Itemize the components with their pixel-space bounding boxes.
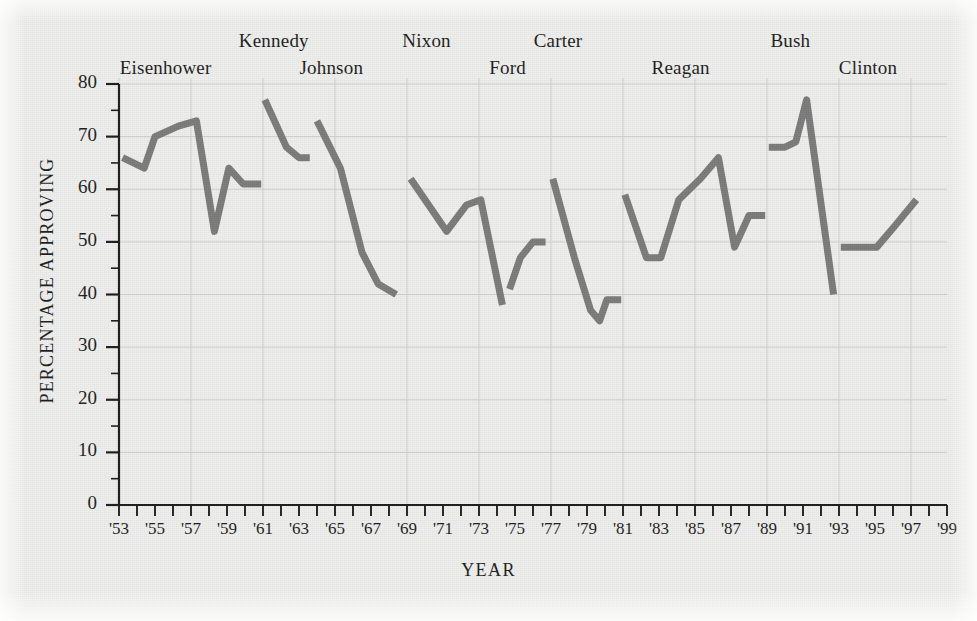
x-tick-label: '93 — [819, 519, 859, 539]
president-label-johnson: Johnson — [299, 57, 363, 79]
y-tick-label: 20 — [57, 387, 97, 409]
x-tick-label: '73 — [459, 519, 499, 539]
series-line-johnson — [317, 121, 396, 295]
president-label-eisenhower: Eisenhower — [120, 57, 212, 79]
y-tick-label: 60 — [57, 176, 97, 198]
data-lines — [123, 100, 917, 321]
x-tick-label: '83 — [639, 519, 679, 539]
president-label-carter: Carter — [534, 30, 583, 52]
y-tick-label: 40 — [57, 282, 97, 304]
series-line-eisenhower — [123, 121, 262, 232]
x-tick-label: '61 — [243, 519, 283, 539]
x-tick-label: '97 — [891, 519, 931, 539]
series-line-ford — [510, 242, 546, 289]
y-tick-label: 50 — [57, 229, 97, 251]
x-tick-label: '69 — [387, 519, 427, 539]
x-tick-label: '89 — [747, 519, 787, 539]
x-tick-label: '99 — [927, 519, 967, 539]
x-tick-label: '81 — [603, 519, 643, 539]
axis-ticks — [106, 84, 947, 516]
y-tick-label: 10 — [57, 439, 97, 461]
x-tick-label: '87 — [711, 519, 751, 539]
president-label-reagan: Reagan — [652, 57, 710, 79]
x-tick-label: '71 — [423, 519, 463, 539]
president-label-ford: Ford — [489, 57, 526, 79]
series-line-carter — [553, 179, 621, 321]
gridlines — [119, 78, 947, 505]
x-tick-label: '85 — [675, 519, 715, 539]
x-tick-label: '55 — [135, 519, 175, 539]
y-tick-label: 70 — [57, 124, 97, 146]
president-label-clinton: Clinton — [839, 57, 897, 79]
chart-page: 01020304050607080'53'55'57'59'61'63'65'6… — [0, 0, 977, 621]
series-line-bush — [769, 100, 834, 295]
president-label-kennedy: Kennedy — [239, 30, 309, 52]
x-axis-title: YEAR — [0, 560, 977, 581]
series-line-kennedy — [265, 100, 310, 158]
x-tick-label: '59 — [207, 519, 247, 539]
y-tick-label: 80 — [57, 71, 97, 93]
x-tick-label: '95 — [855, 519, 895, 539]
series-line-clinton — [841, 200, 917, 247]
x-tick-label: '77 — [531, 519, 571, 539]
president-label-nixon: Nixon — [402, 30, 451, 52]
x-tick-label: '79 — [567, 519, 607, 539]
x-tick-label: '53 — [99, 519, 139, 539]
x-tick-label: '75 — [495, 519, 535, 539]
x-tick-label: '57 — [171, 519, 211, 539]
x-tick-label: '67 — [351, 519, 391, 539]
x-tick-label: '63 — [279, 519, 319, 539]
y-tick-label: 0 — [57, 492, 97, 514]
x-tick-label: '91 — [783, 519, 823, 539]
x-tick-label: '65 — [315, 519, 355, 539]
y-tick-label: 30 — [57, 334, 97, 356]
president-label-bush: Bush — [770, 30, 810, 52]
y-axis-title: PERCENTAGE APPROVING — [37, 116, 58, 446]
